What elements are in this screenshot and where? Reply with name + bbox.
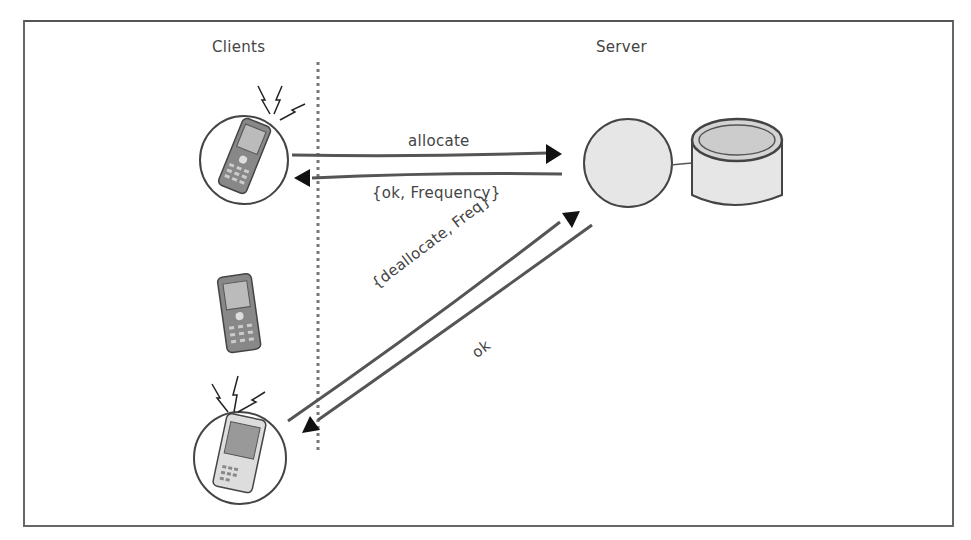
signal-bolt-icon [212,376,265,412]
server-database-cylinder-icon [692,119,782,205]
allocate-message-label: allocate [408,132,470,150]
diagram-canvas [0,0,971,540]
client-1-mobile-phone-icon [200,86,305,204]
client-2-mobile-phone-icon [217,273,261,353]
ok-arrow [302,225,592,433]
client-3-pda-phone-icon [194,376,286,504]
signal-bolt-icon [258,86,305,120]
server-process-circle-icon [584,119,692,207]
